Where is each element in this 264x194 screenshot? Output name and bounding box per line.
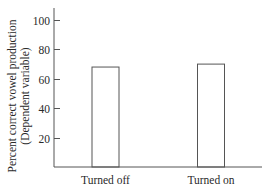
y-tick-label: 20 xyxy=(39,133,51,145)
y-tick-label: 100 xyxy=(33,15,51,27)
x-category-label: Turned on xyxy=(187,174,234,186)
y-tick-label: 60 xyxy=(39,74,51,86)
x-category-label: Turned off xyxy=(81,174,130,186)
y-tick-label: 80 xyxy=(39,44,51,56)
bars xyxy=(92,64,225,167)
x-axis: Turned offTurned on xyxy=(54,167,262,186)
bar-turned-on xyxy=(198,64,225,167)
y-tick-label: 40 xyxy=(39,103,51,115)
bar-chart: 20406080100 Turned offTurned on xyxy=(0,0,264,194)
y-axis: 20406080100 xyxy=(33,8,60,167)
bar-turned-off xyxy=(92,67,119,167)
